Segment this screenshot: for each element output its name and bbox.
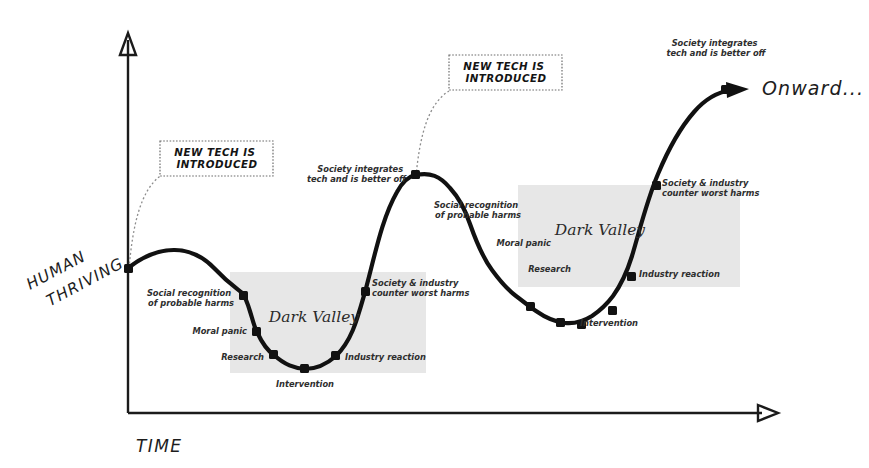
annotation-counter-harms-2: Society & industry counter worst harms	[662, 178, 759, 198]
curve-node-industry-reaction-1	[331, 351, 340, 360]
callout-new-tech-1[interactable]: NEW TECH IS INTRODUCED	[160, 141, 273, 176]
annotation-line: tech and is better off	[307, 174, 407, 184]
curve-node-social-recognition-1	[239, 291, 248, 300]
callout-line: INTRODUCED	[465, 72, 546, 84]
callout-new-tech-2[interactable]: NEW TECH IS INTRODUCED	[449, 55, 562, 90]
annotation-line: Social recognition	[147, 288, 231, 298]
annotation-integrates-2: Society integrates tech and is better of…	[666, 38, 766, 58]
y-axis-label: HUMAN THRIVING	[23, 233, 126, 315]
annotation-line: Moral panic	[496, 238, 551, 248]
annotation-social-recognition-2: Social recognition of probable harms	[434, 200, 521, 220]
curve-node-moral-panic-2	[556, 318, 565, 327]
annotation-moral-panic-1: Moral panic	[192, 326, 247, 336]
annotation-line: counter worst harms	[372, 288, 469, 298]
curve-node-intervention-2	[608, 306, 617, 315]
dark-valley-diagram: Social recognition of probable harms Mor…	[0, 0, 869, 468]
annotation-line: of probable harms	[435, 210, 521, 220]
annotation-line: Society & industry	[372, 278, 459, 288]
callout-line: NEW TECH IS	[463, 60, 544, 72]
callout-text-1: NEW TECH IS INTRODUCED	[174, 146, 259, 170]
annotation-line: counter worst harms	[662, 188, 759, 198]
curve-node-counter-harms-1	[361, 287, 370, 296]
callout-line: NEW TECH IS	[174, 146, 255, 158]
annotation-line: of probable harms	[148, 298, 234, 308]
annotation-line: Research	[221, 352, 264, 362]
annotation-research-1: Research	[221, 352, 264, 362]
annotation-line: Moral panic	[192, 326, 247, 336]
curve-node-social-recognition-2	[526, 302, 535, 311]
callout-line: INTRODUCED	[176, 158, 257, 170]
annotation-intervention-2: Intervention	[580, 318, 638, 328]
annotation-industry-reaction-2: Industry reaction	[639, 269, 720, 279]
curve-node-moral-panic-1	[252, 327, 261, 336]
annotation-integrates-1: Society integrates tech and is better of…	[307, 164, 407, 184]
annotation-line: Intervention	[580, 318, 638, 328]
x-axis-label: TIME	[136, 436, 182, 456]
curve-node-counter-harms-2	[652, 181, 661, 190]
curve-node-integrates-1	[411, 170, 420, 179]
dark-valley-label-1: Dark Valley	[268, 308, 359, 326]
annotation-industry-reaction-1: Industry reaction	[345, 352, 426, 362]
annotation-social-recognition-1: Social recognition of probable harms	[147, 288, 234, 308]
onward-label: Onward...	[762, 77, 864, 99]
annotation-line: Social recognition	[434, 200, 518, 210]
curve-node-intervention-1	[300, 364, 309, 373]
curve-node-research-1	[269, 350, 278, 359]
annotation-research-2: Research	[528, 264, 571, 274]
annotation-line: Industry reaction	[345, 352, 426, 362]
annotation-counter-harms-1: Society & industry counter worst harms	[372, 278, 469, 298]
annotation-line: Society integrates	[317, 164, 403, 174]
annotation-line: Research	[528, 264, 571, 274]
annotation-line: Society integrates	[672, 38, 758, 48]
curve-node-integrates-2	[721, 85, 730, 94]
annotation-line: tech and is better off	[666, 48, 766, 58]
curve-node-industry-reaction-2	[627, 272, 636, 281]
dark-valley-label-2: Dark Valley	[554, 221, 645, 239]
annotation-line: Industry reaction	[639, 269, 720, 279]
annotation-line: Intervention	[276, 379, 334, 389]
annotation-moral-panic-2: Moral panic	[496, 238, 551, 248]
annotation-line: Society & industry	[662, 178, 749, 188]
callout-leader-2	[416, 91, 449, 176]
annotation-intervention-1: Intervention	[276, 379, 334, 389]
callout-text-2: NEW TECH IS INTRODUCED	[463, 60, 548, 84]
